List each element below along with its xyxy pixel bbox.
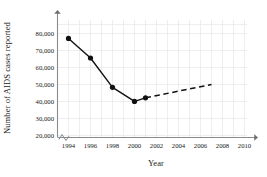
y-axis-title: Number of AIDS cases reported <box>2 8 14 148</box>
y-axis-tick-label: 30,000 <box>20 115 54 122</box>
data-point-marker <box>143 95 148 100</box>
x-axis-tick-label: 2010 <box>230 142 260 149</box>
y-axis-tick-label: 50,000 <box>20 81 54 88</box>
chart-plot-area <box>0 0 267 177</box>
y-axis-tick-label: 80,000 <box>20 30 54 37</box>
grid-horizontal-lines <box>58 25 247 136</box>
y-axis-tick-label: 40,000 <box>20 98 54 105</box>
series-reported-aids-cases-markers <box>66 36 148 104</box>
data-point-marker <box>66 36 71 41</box>
data-point-marker <box>110 85 115 90</box>
y-axis-tick-label: 60,000 <box>20 64 54 71</box>
x-axis-title: Year <box>56 158 256 168</box>
grid-minor-vertical-lines <box>69 20 245 137</box>
y-axis-tick-label: 20,000 <box>20 132 54 139</box>
y-axis-tick-label: 70,000 <box>20 47 54 54</box>
chart-figure: Number of AIDS cases reported Year 80,00… <box>0 0 267 177</box>
data-point-marker <box>88 55 93 60</box>
data-point-marker <box>132 99 137 104</box>
series-reported-aids-cases-line <box>69 38 146 101</box>
